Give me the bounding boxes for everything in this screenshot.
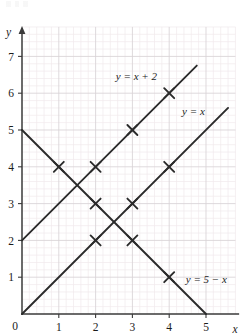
- chart-canvas: 1234512345670yxy = x + 2y = xy = 5 − x: [0, 0, 242, 336]
- series-label: y = x: [181, 105, 205, 117]
- y-axis-name: y: [5, 26, 12, 39]
- y-tick-label: 6: [8, 87, 14, 99]
- y-tick-label: 5: [8, 124, 14, 136]
- x-tick-label: 2: [93, 321, 99, 333]
- y-tick-label: 2: [8, 235, 14, 247]
- y-tick-label: 7: [8, 51, 14, 63]
- top-edge-artifact: [6, 1, 28, 7]
- series-label: y = x + 2: [115, 70, 158, 82]
- y-tick-label: 1: [8, 271, 14, 283]
- tick-marks: [18, 56, 206, 318]
- y-tick-label: 4: [8, 161, 14, 173]
- x-tick-label: 3: [130, 321, 136, 333]
- series-label: y = 5 − x: [185, 273, 227, 285]
- line-graph-figure: 1234512345670yxy = x + 2y = xy = 5 − x: [0, 0, 242, 336]
- x-axis-name: x: [231, 323, 238, 335]
- x-tick-label: 1: [56, 321, 62, 333]
- x-tick-label: 5: [203, 321, 209, 333]
- series-1: y = x + 2: [22, 66, 197, 241]
- series-3: y = 5 − x: [22, 130, 227, 314]
- x-tick-label: 4: [166, 321, 172, 333]
- origin-label: 0: [12, 320, 18, 332]
- y-tick-label: 3: [8, 198, 14, 210]
